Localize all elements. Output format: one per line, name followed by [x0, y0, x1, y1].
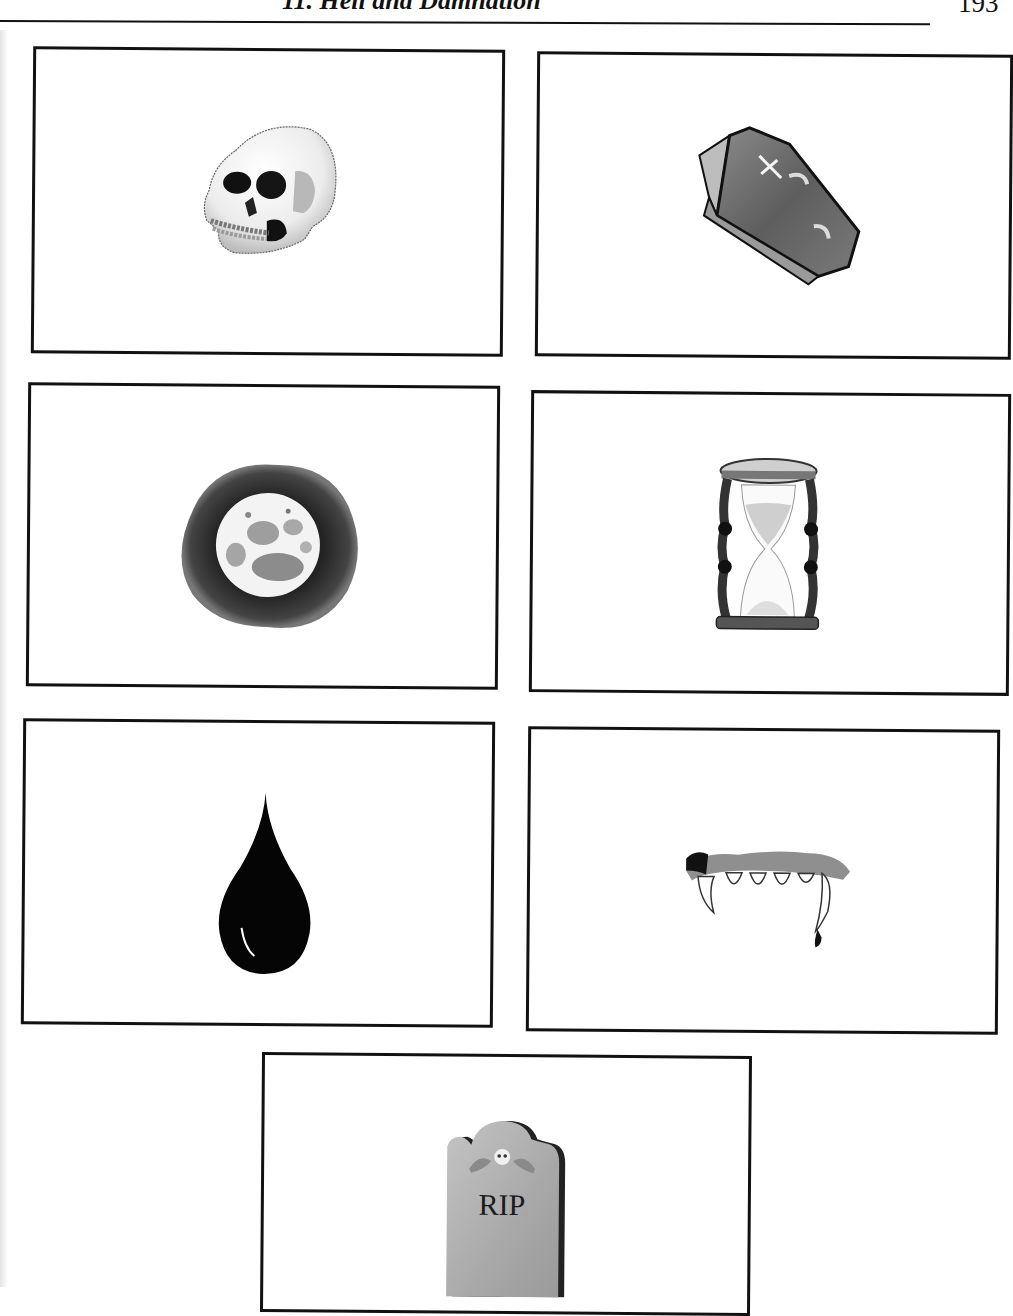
frame-vampire-fangs	[526, 726, 1000, 1035]
running-title: 11. Hell and Damnation	[282, 0, 541, 16]
frame-blood-drop	[21, 718, 495, 1028]
frame-tombstone: RIP	[260, 1052, 752, 1316]
vampire-fangs-icon	[677, 840, 858, 951]
tombstone-inscription: RIP	[478, 1188, 525, 1221]
frame-coffin	[535, 51, 1013, 360]
header-rule	[0, 20, 930, 25]
running-head: 11. Hell and Damnation 193	[0, 0, 1004, 40]
hourglass-icon	[712, 457, 823, 638]
skull-icon	[194, 120, 345, 271]
coffin-icon	[688, 115, 869, 286]
blood-drop-icon	[214, 788, 315, 979]
page-gutter-shadow	[0, 30, 8, 1287]
frame-skull	[31, 46, 505, 357]
frame-full-moon	[26, 382, 500, 690]
tombstone-icon: RIP	[440, 1116, 571, 1297]
frame-hourglass	[529, 390, 1011, 696]
full-moon-icon	[167, 454, 368, 636]
page-number: 193	[958, 0, 999, 19]
